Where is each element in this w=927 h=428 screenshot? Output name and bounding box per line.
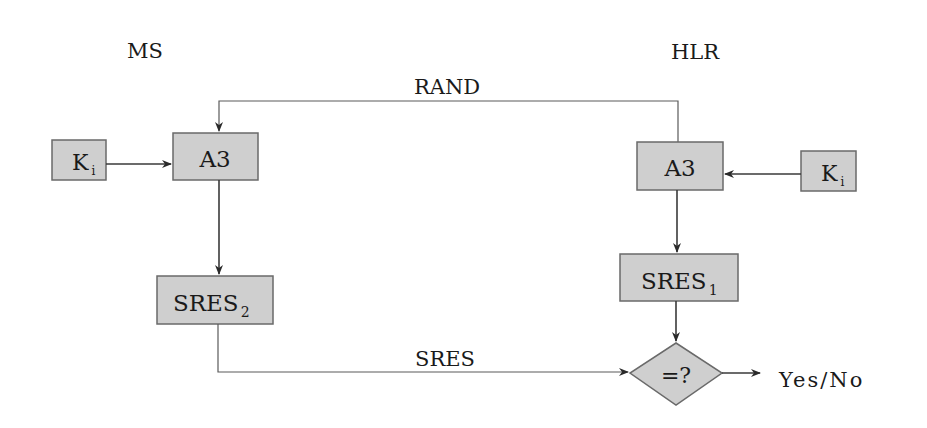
hlr-a3-node: A3 <box>637 142 723 190</box>
rand-connector <box>219 101 678 142</box>
sres-edge: SRES <box>218 324 628 372</box>
hlr-ki-node: Ki <box>801 151 856 191</box>
hlr-a3-label: A3 <box>663 155 695 181</box>
compare-node: =? <box>630 343 722 405</box>
ms-a3-node: A3 <box>173 133 258 180</box>
rand-edge: RAND <box>219 75 678 142</box>
hlr-sres-node: SRES1 <box>620 254 738 301</box>
hlr-sres-label: SRES1 <box>641 268 718 298</box>
ms-sres-node: SRES2 <box>157 276 273 324</box>
compare-label: =? <box>661 363 691 388</box>
ms-sres-label: SRES2 <box>173 290 250 320</box>
ms-label: MS <box>127 39 163 63</box>
ms-ki-node: Ki <box>52 140 106 180</box>
rand-label: RAND <box>414 75 480 99</box>
sres-label: SRES <box>415 347 475 371</box>
ms-a3-label: A3 <box>198 146 230 172</box>
result-label: Yes/No <box>778 368 864 392</box>
authentication-diagram: MS HLR RAND Ki A3 SRES2 SRES A3 Ki SRES1 <box>0 0 927 428</box>
hlr-label: HLR <box>671 40 720 64</box>
